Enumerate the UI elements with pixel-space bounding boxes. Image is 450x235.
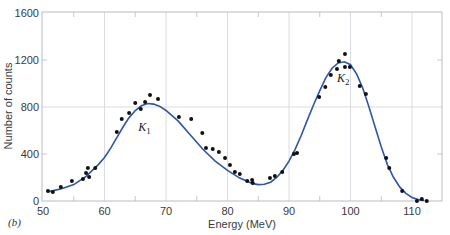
data-point (204, 146, 208, 150)
x-tick-labels: 5060708090100110 (37, 205, 421, 217)
x-tick-label: 100 (341, 205, 359, 217)
data-point (323, 85, 327, 89)
x-axis-label: Energy (MeV) (208, 218, 276, 230)
data-point (84, 171, 88, 175)
data-point (415, 199, 419, 203)
data-point (273, 174, 277, 178)
data-point (46, 189, 50, 193)
y-tick-label: 400 (21, 148, 39, 160)
x-tick-label: 60 (98, 205, 110, 217)
data-point (133, 101, 137, 105)
data-point (343, 65, 347, 69)
data-point (238, 172, 242, 176)
data-point (120, 117, 124, 121)
y-axis-label: Number of counts (2, 62, 14, 149)
data-point (245, 179, 249, 183)
data-point (337, 59, 341, 63)
data-point (189, 117, 193, 121)
fitted-curve (49, 62, 424, 201)
data-point (348, 65, 352, 69)
grid-lines (42, 12, 442, 201)
data-point (156, 97, 160, 101)
data-point (59, 185, 63, 189)
data-point (420, 197, 424, 201)
peak-annotations: K1K2 (137, 71, 349, 135)
data-point (251, 181, 255, 185)
data-point (93, 166, 97, 170)
data-point (384, 156, 388, 160)
data-point (87, 175, 91, 179)
y-tick-label: 1200 (15, 54, 39, 66)
data-point (317, 95, 321, 99)
axis-ticks (42, 12, 442, 201)
data-point (233, 170, 237, 174)
data-point (177, 115, 181, 119)
plot-frame (42, 12, 442, 201)
data-point (143, 100, 147, 104)
data-point (127, 111, 131, 115)
y-tick-label: 1600 (15, 7, 39, 19)
data-point (51, 190, 55, 194)
y-tick-label: 0 (33, 195, 39, 207)
data-point (139, 107, 143, 111)
data-point (115, 130, 119, 134)
data-point (223, 156, 227, 160)
x-tick-label: 70 (160, 205, 172, 217)
data-point (86, 166, 90, 170)
data-point (268, 176, 272, 180)
data-point (329, 73, 333, 77)
data-point (343, 52, 347, 56)
data-point (70, 179, 74, 183)
data-point (217, 150, 221, 154)
data-point (387, 166, 391, 170)
y-tick-label: 800 (21, 101, 39, 113)
peak-label: K1 (137, 120, 151, 136)
data-point (148, 93, 152, 97)
data-point (280, 170, 284, 174)
data-points (46, 52, 429, 203)
y-tick-labels: 040080012001600 (15, 7, 39, 207)
data-point (200, 131, 204, 135)
data-point (228, 163, 232, 167)
x-tick-label: 90 (283, 205, 295, 217)
data-point (295, 151, 299, 155)
data-point (425, 199, 429, 203)
panel-label: (b) (8, 216, 21, 229)
data-point (81, 177, 85, 181)
x-tick-label: 80 (221, 205, 233, 217)
data-point (211, 147, 215, 151)
data-point (358, 84, 362, 88)
x-tick-label: 110 (403, 205, 421, 217)
peak-label: K2 (336, 71, 350, 87)
data-point (400, 189, 404, 193)
energy-spectrum-chart: 5060708090100110 040080012001600 K1K2 En… (0, 0, 450, 235)
data-point (364, 92, 368, 96)
